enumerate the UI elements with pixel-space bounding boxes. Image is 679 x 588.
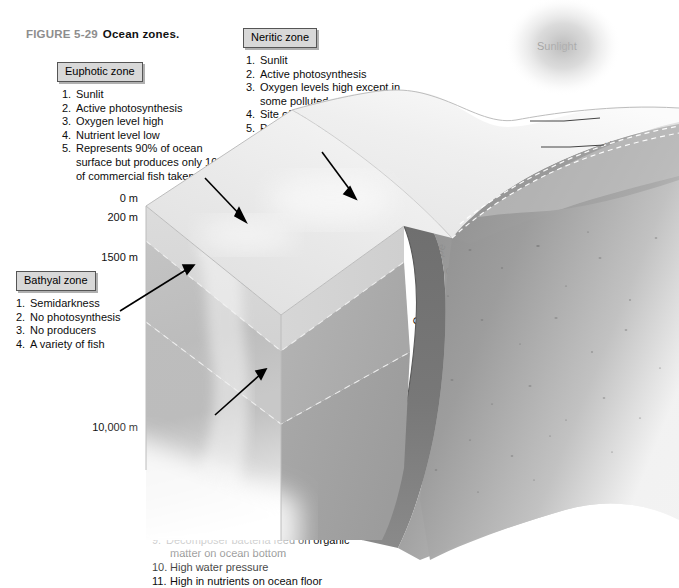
sunlight-glow [505, 0, 621, 96]
